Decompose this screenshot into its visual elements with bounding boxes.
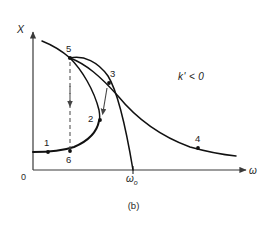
y-axis-label: X [17, 24, 24, 35]
origin-label: 0 [21, 173, 26, 182]
curve-branch-middle [70, 58, 236, 156]
point-label-2: 2 [88, 114, 93, 124]
point-label-1: 1 [44, 138, 49, 148]
point-label-3: 3 [110, 69, 115, 79]
x-tick-label-omega-zero: ωo [126, 174, 138, 186]
figure-caption: (b) [0, 200, 267, 211]
x-axis-label: ω [249, 166, 257, 176]
point-marker-3 [107, 81, 111, 85]
point-label-6: 6 [66, 155, 71, 165]
curve-branch-outer [70, 57, 133, 170]
curve-branch-inner [70, 58, 100, 121]
omega-symbol: ω [126, 173, 134, 184]
point-label-4: 4 [195, 134, 200, 144]
resonance-curve-plot [0, 0, 267, 226]
curve-low-branch [33, 121, 99, 152]
point-marker-4 [196, 146, 200, 150]
point-marker-5 [68, 56, 72, 60]
point-marker-1 [46, 150, 50, 154]
point-marker-2 [98, 118, 102, 122]
point-label-5: 5 [66, 44, 71, 54]
figure-container: X ω 0 ωo k' < 0 1 2 3 4 5 6 (b) [0, 0, 267, 226]
point-marker-6 [68, 149, 72, 153]
omega-subscript: o [134, 179, 138, 186]
condition-annotation: k' < 0 [178, 72, 204, 82]
jump-arrow-3-to-2 [103, 88, 107, 112]
